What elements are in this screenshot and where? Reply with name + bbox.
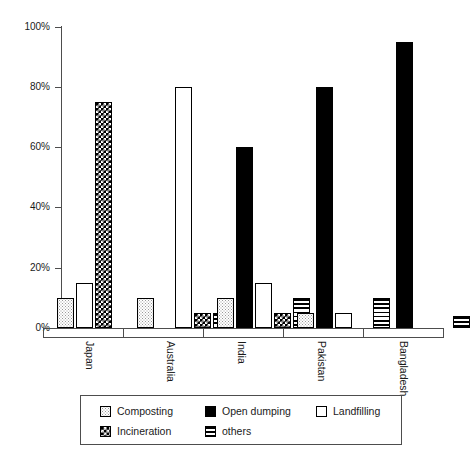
x-label-australia: Australia [165,341,176,382]
legend-item-others: others [205,426,251,437]
y-tick-60 [55,147,61,148]
bar-pakistan-landfilling [335,313,352,328]
legend-swatch-composting-icon [100,406,111,417]
y-tick-80 [55,87,61,88]
bar-australia-incineration [194,313,211,328]
x-tick-australia [203,328,204,337]
legend-swatch-open-dumping-icon [205,406,216,417]
x-label-bangladesh: Bangladesh [398,341,409,396]
y-tick-label-40: 40% [8,202,50,212]
y-tick-20 [55,268,61,269]
x-label-india: India [236,341,247,364]
bar-india-landfilling [255,283,272,328]
legend-label-landfilling: Landfilling [333,406,380,417]
legend-item-open-dumping: Open dumping [205,406,291,417]
x-tick-pakistan [363,328,364,337]
legend-label-incineration: Incineration [117,426,171,437]
bar-japan-composting [57,298,74,328]
legend-label-open-dumping: Open dumping [222,406,291,417]
legend-item-incineration: Incineration [100,426,171,437]
bar-australia-landfilling [175,87,192,328]
bar-japan-incineration [95,102,112,328]
legend-item-composting: Composting [100,406,173,417]
y-tick-100 [55,27,61,28]
x-tick-japan [123,328,124,337]
bar-pakistan-composting [297,313,314,328]
bar-pakistan-opendumping [316,87,333,328]
bar-india-composting [217,298,234,328]
legend-swatch-incineration-icon [100,426,111,437]
bar-bangladesh-opendumping [396,42,413,328]
y-tick-label-20: 20% [8,263,50,273]
x-tick-end [443,328,444,337]
x-axis-tick-band [43,337,444,338]
plot-area [62,27,442,328]
x-tick-india [283,328,284,337]
y-tick-label-100: 100% [8,22,50,32]
x-axis-line [43,328,444,329]
x-label-japan: Japan [84,341,95,370]
bar-india-incineration [274,313,291,328]
legend-item-landfilling: Landfilling [316,406,380,417]
y-tick-40 [55,207,61,208]
legend-label-others: others [222,426,251,437]
y-tick-label-80: 80% [8,82,50,92]
y-tick-label-60: 60% [8,142,50,152]
legend-label-composting: Composting [117,406,173,417]
bar-japan-landfilling [76,283,93,328]
legend-swatch-landfilling-icon [316,406,327,417]
bar-australia-composting [137,298,154,328]
legend: Composting Open dumping Landfilling Inci… [80,395,402,445]
x-label-pakistan: Pakistan [316,341,327,381]
bar-india-opendumping [236,147,253,328]
bar-pakistan-others [373,298,390,328]
x-tick-start [43,328,44,337]
bar-bangladesh-others [453,316,470,328]
legend-swatch-others-icon [205,426,216,437]
